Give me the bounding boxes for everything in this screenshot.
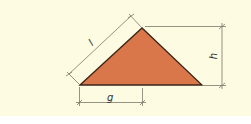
height-label: h	[209, 53, 219, 59]
triangle-shape	[80, 28, 202, 85]
triangle-diagram	[0, 0, 251, 124]
base-offset-label: g	[107, 93, 113, 103]
